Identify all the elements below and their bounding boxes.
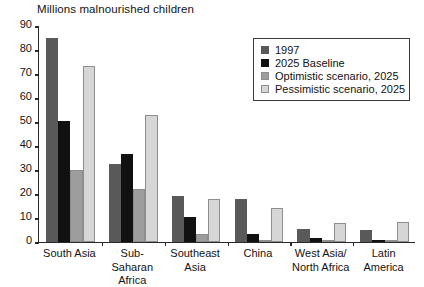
legend-item: 1997 <box>261 44 409 56</box>
legend-swatch-icon <box>261 72 269 80</box>
bar <box>385 240 397 242</box>
bar <box>133 189 145 242</box>
legend-swatch-icon <box>261 85 269 93</box>
bar <box>121 154 133 242</box>
x-axis-label: Latin America <box>352 247 415 274</box>
x-axis-tick-mark <box>228 242 229 246</box>
bar <box>58 121 70 242</box>
y-axis-tick-label: 90 <box>20 19 32 30</box>
x-axis-tick-mark <box>290 242 291 246</box>
y-axis-tick-label: 70 <box>20 67 32 78</box>
bar <box>297 229 309 242</box>
bar <box>109 164 121 242</box>
y-axis-tick-label: 50 <box>20 115 32 126</box>
bar <box>322 240 334 242</box>
chart-legend: 19972025 BaselineOptimistic scenario, 20… <box>253 38 410 101</box>
chart-title: Millions malnourished children <box>37 2 194 16</box>
x-axis-label: South Asia <box>38 247 101 261</box>
y-axis-tick-label: 10 <box>20 211 32 222</box>
bar <box>372 240 384 242</box>
legend-item: 2025 Baseline <box>261 57 409 69</box>
bar <box>46 38 58 242</box>
legend-item: Pessimistic scenario, 2025 <box>261 83 409 95</box>
bar <box>334 223 346 242</box>
bar <box>70 170 82 242</box>
x-axis-tick-mark <box>353 242 354 246</box>
bar <box>259 240 271 242</box>
x-axis-label: West Asia/ North Africa <box>289 247 352 274</box>
bar-group <box>46 27 95 242</box>
x-axis-label: Sub-Saharan Africa <box>101 247 164 287</box>
bar <box>145 115 157 242</box>
legend-label: 2025 Baseline <box>275 57 345 69</box>
bar <box>172 196 184 242</box>
bar <box>310 238 322 242</box>
y-axis-tick-label: 20 <box>20 187 32 198</box>
x-axis-tick-mark <box>165 242 166 246</box>
bar <box>235 199 247 242</box>
x-axis-label: China <box>227 247 290 261</box>
bar <box>196 234 208 242</box>
bar <box>184 217 196 242</box>
bar <box>83 66 95 242</box>
bar-group <box>109 27 158 242</box>
y-axis-tick-label: 0 <box>26 235 32 246</box>
y-axis-tick-mark <box>35 242 39 243</box>
y-axis-tick-label: 80 <box>20 43 32 54</box>
bar <box>247 234 259 242</box>
bar <box>397 222 409 242</box>
x-axis-label: Southeast Asia <box>164 247 227 274</box>
legend-swatch-icon <box>261 59 269 67</box>
y-axis-tick-label: 40 <box>20 139 32 150</box>
legend-label: Optimistic scenario, 2025 <box>275 70 399 82</box>
legend-swatch-icon <box>261 46 269 54</box>
y-axis-tick-label: 60 <box>20 91 32 102</box>
y-axis-tick-label: 30 <box>20 163 32 174</box>
legend-label: Pessimistic scenario, 2025 <box>275 83 405 95</box>
x-axis-tick-mark <box>102 242 103 246</box>
bar <box>208 199 220 242</box>
bar <box>271 208 283 242</box>
chart-figure: Millions malnourished children 010203040… <box>0 0 424 287</box>
legend-label: 1997 <box>275 44 299 56</box>
bar <box>360 230 372 242</box>
legend-item: Optimistic scenario, 2025 <box>261 70 409 82</box>
bar-group <box>172 27 221 242</box>
